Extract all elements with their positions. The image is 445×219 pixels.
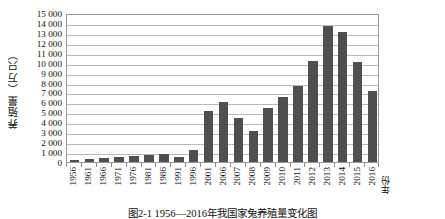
bar-slot bbox=[201, 15, 216, 162]
bar[interactable] bbox=[278, 97, 288, 162]
y-axis-tick-labels: 01 0002 0003 0004 0005 0006 0007 0008 00… bbox=[24, 14, 64, 163]
x-tick-label: 2011 bbox=[292, 167, 302, 185]
x-tick-label: 1971 bbox=[113, 167, 123, 185]
x-tick-label: 2014 bbox=[337, 167, 347, 185]
bar[interactable] bbox=[263, 108, 273, 162]
x-tick-label: 1976 bbox=[128, 167, 138, 185]
bar-slot bbox=[142, 15, 157, 162]
x-tick-label: 1966 bbox=[98, 167, 108, 185]
x-tick-label: 2009 bbox=[262, 167, 272, 185]
y-tick-label: 6 000 bbox=[41, 99, 62, 108]
bar[interactable] bbox=[99, 158, 109, 162]
y-tick-label: 7 000 bbox=[41, 89, 62, 98]
bar-slot bbox=[112, 15, 127, 162]
bar[interactable] bbox=[144, 155, 154, 162]
bar-slot bbox=[67, 15, 82, 162]
x-tick-label: 1991 bbox=[173, 167, 183, 185]
x-tick-label: 1996 bbox=[188, 167, 198, 185]
bar[interactable] bbox=[308, 61, 318, 162]
bar-slot bbox=[291, 15, 306, 162]
bar-slot bbox=[320, 15, 335, 162]
x-tick-label: 2007 bbox=[232, 167, 242, 185]
bar-slot bbox=[216, 15, 231, 162]
bar-slot bbox=[261, 15, 276, 162]
y-axis-title-text: 养殖量（万只） bbox=[6, 48, 21, 129]
bar-slot bbox=[365, 15, 379, 162]
y-tick-label: 2 000 bbox=[41, 139, 62, 148]
x-tick-label: 1956 bbox=[68, 167, 78, 185]
bar[interactable] bbox=[234, 118, 244, 162]
figure-root: 养殖量（万只） 01 0002 0003 0004 0005 0006 0007… bbox=[0, 0, 445, 219]
bar-slot bbox=[156, 15, 171, 162]
x-tick-label: 2013 bbox=[322, 167, 332, 185]
y-tick-label: 3 000 bbox=[41, 129, 62, 138]
y-tick-label: 13 000 bbox=[37, 29, 62, 38]
bar-slot bbox=[82, 15, 97, 162]
bar-slot bbox=[305, 15, 320, 162]
bar-slot bbox=[276, 15, 291, 162]
x-tick-label: 1961 bbox=[83, 167, 93, 185]
bar-slot bbox=[335, 15, 350, 162]
bar[interactable] bbox=[368, 91, 378, 162]
bar-slot bbox=[97, 15, 112, 162]
bar[interactable] bbox=[293, 86, 303, 162]
x-axis-title: 年份 bbox=[381, 176, 391, 194]
bar[interactable] bbox=[338, 32, 348, 162]
bar[interactable] bbox=[323, 26, 333, 162]
bar[interactable] bbox=[204, 111, 214, 162]
bar[interactable] bbox=[159, 154, 169, 162]
bar-series bbox=[67, 15, 378, 162]
figure-caption: 图2-1 1956—2016年我国家兔养殖量变化图 bbox=[0, 207, 445, 219]
x-tick-label: 2008 bbox=[247, 167, 257, 185]
y-axis-title: 养殖量（万只） bbox=[2, 18, 24, 158]
plot-area bbox=[66, 14, 379, 163]
bar[interactable] bbox=[219, 102, 229, 162]
x-tick-label: 2012 bbox=[307, 167, 317, 185]
y-tick-label: 4 000 bbox=[41, 119, 62, 128]
x-tick-label: 2015 bbox=[352, 167, 362, 185]
bar[interactable] bbox=[189, 150, 199, 162]
x-tick-label: 1986 bbox=[158, 167, 168, 185]
bar-slot bbox=[171, 15, 186, 162]
bar-slot bbox=[186, 15, 201, 162]
x-axis-tick-labels: 1956196119661971197619811986199119962001… bbox=[66, 167, 379, 201]
y-tick-label: 14 000 bbox=[37, 19, 62, 28]
bar[interactable] bbox=[174, 157, 184, 162]
bar-slot bbox=[231, 15, 246, 162]
y-tick-label: 12 000 bbox=[37, 39, 62, 48]
x-tick-label: 2010 bbox=[277, 167, 287, 185]
x-tick-label: 1981 bbox=[143, 167, 153, 185]
bar[interactable] bbox=[129, 156, 139, 162]
bar[interactable] bbox=[353, 62, 363, 162]
bar[interactable] bbox=[249, 131, 259, 162]
y-tick-label: 1 000 bbox=[41, 149, 62, 158]
y-tick-label: 0 bbox=[57, 159, 62, 168]
y-tick-label: 9 000 bbox=[41, 69, 62, 78]
y-tick-label: 10 000 bbox=[37, 59, 62, 68]
y-tick-label: 5 000 bbox=[41, 109, 62, 118]
y-tick-label: 8 000 bbox=[41, 79, 62, 88]
x-tick-label: 2006 bbox=[218, 167, 228, 185]
y-tick-label: 15 000 bbox=[37, 10, 62, 19]
bar[interactable] bbox=[114, 157, 124, 162]
bar-slot bbox=[246, 15, 261, 162]
bar[interactable] bbox=[70, 160, 80, 162]
bar[interactable] bbox=[85, 159, 95, 162]
bar-slot bbox=[127, 15, 142, 162]
y-tick-label: 11 000 bbox=[37, 49, 62, 58]
bar-slot bbox=[350, 15, 365, 162]
x-tick-label: 2001 bbox=[203, 167, 213, 185]
x-tick-label: 2016 bbox=[367, 167, 377, 185]
